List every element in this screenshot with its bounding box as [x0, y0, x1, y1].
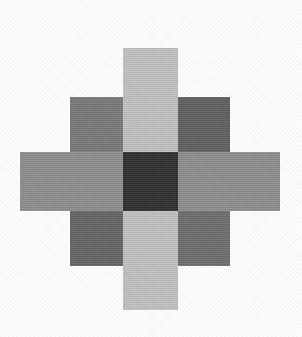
tile-top-arm — [123, 48, 178, 152]
tile-left-arm — [20, 152, 123, 211]
cross-pattern-figure — [0, 0, 302, 337]
tile-bottom-left — [70, 211, 123, 266]
tile-bottom-right — [178, 211, 230, 266]
tile-right-arm — [178, 152, 280, 211]
tile-top-right — [178, 97, 230, 152]
tile-top-left — [70, 97, 123, 152]
tile-center — [123, 152, 178, 211]
tile-bottom-arm — [123, 211, 178, 310]
